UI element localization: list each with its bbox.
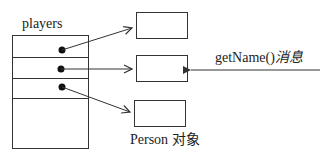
reference-arrow-1: [62, 28, 132, 50]
person-object-3: [135, 101, 186, 127]
message-suffix: 消息: [275, 50, 303, 65]
players-array: [13, 36, 89, 149]
person-object-1: [137, 13, 188, 39]
reference-arrow-3: [62, 87, 130, 112]
message-method: getName(): [215, 50, 275, 65]
message-label: getName()消息: [215, 51, 303, 65]
array-label: players: [22, 17, 62, 31]
person-object-2: [137, 56, 188, 82]
objects-label: Person 对象: [130, 133, 200, 147]
